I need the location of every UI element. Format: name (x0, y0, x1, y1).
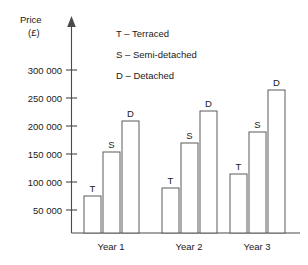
chart-legend: T – Terraced S – Semi-detached D – Detac… (116, 28, 197, 81)
bar-chart: Price (£) 50 000 100 000 150 000 200 000… (0, 0, 308, 265)
bar-year3-terraced (230, 174, 247, 233)
y-axis-title-line1: Price (20, 14, 42, 25)
x-axis-category-labels: Year 1 Year 2 Year 3 (97, 241, 270, 252)
x-category-label-year-2: Year 2 (175, 241, 202, 252)
bar-label-year3-semi-detached: S (254, 119, 260, 130)
bar-group-year-3: T S D (230, 77, 285, 233)
y-tick-label: 300 000 (28, 65, 62, 76)
bar-group-year-1: T S D (84, 108, 139, 233)
bar-year1-semi-detached (103, 152, 120, 233)
bar-label-year1-terraced: T (90, 183, 96, 194)
bar-year1-detached (122, 121, 139, 233)
y-axis-title: Price (£) (20, 14, 42, 38)
y-tick-label: 100 000 (28, 177, 62, 188)
legend-item-semi-detached: S – Semi-detached (116, 49, 197, 60)
y-tick-label: 150 000 (28, 149, 62, 160)
y-tick-label: 200 000 (28, 121, 62, 132)
legend-item-detached: D – Detached (116, 70, 174, 81)
bar-label-year1-detached: D (127, 108, 134, 119)
y-tick-label: 250 000 (28, 93, 62, 104)
legend-item-terraced: T – Terraced (116, 28, 169, 39)
y-axis (67, 16, 76, 233)
y-axis-arrowhead (67, 16, 76, 27)
bar-year2-terraced (162, 188, 179, 233)
bar-label-year1-semi-detached: S (108, 139, 114, 150)
x-category-label-year-3: Year 3 (243, 241, 270, 252)
bar-year3-semi-detached (249, 132, 266, 233)
x-category-label-year-1: Year 1 (97, 241, 124, 252)
chart-canvas: Price (£) 50 000 100 000 150 000 200 000… (0, 0, 308, 265)
bar-group-year-2: T S D (162, 98, 217, 233)
bar-label-year2-detached: D (205, 98, 212, 109)
bar-year1-terraced (84, 196, 101, 233)
y-axis-title-line2: (£) (28, 27, 40, 38)
bar-year3-detached (268, 90, 285, 233)
bar-year2-semi-detached (181, 143, 198, 233)
bar-label-year2-semi-detached: S (186, 130, 192, 141)
bar-year2-detached (200, 111, 217, 233)
bar-label-year3-terraced: T (236, 161, 242, 172)
y-tick-label: 50 000 (33, 205, 62, 216)
bar-label-year3-detached: D (273, 77, 280, 88)
y-axis-tick-labels: 50 000 100 000 150 000 200 000 250 000 3… (28, 65, 62, 216)
bar-label-year2-terraced: T (168, 175, 174, 186)
